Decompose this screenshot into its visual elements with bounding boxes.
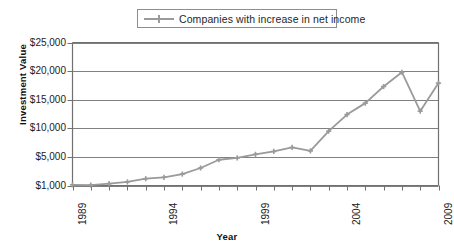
data-point-marker	[161, 175, 166, 180]
data-point-marker	[143, 176, 148, 181]
data-point-marker	[235, 155, 240, 160]
data-point-marker	[180, 171, 185, 176]
data-point-marker	[253, 152, 258, 157]
chart-container: Companies with increase in net income In…	[0, 0, 454, 249]
data-point-marker	[125, 179, 130, 184]
plot-area	[0, 0, 454, 249]
data-point-marker	[271, 149, 276, 154]
data-point-marker	[290, 145, 295, 150]
data-point-marker	[198, 165, 203, 170]
